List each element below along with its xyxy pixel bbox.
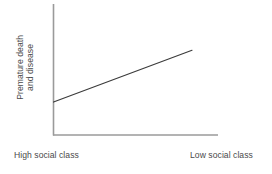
x-axis-label-low-social-class: Low social class (190, 150, 253, 160)
trend-line-series (54, 50, 193, 102)
chart-figure: Premature death and disease High social … (0, 0, 272, 174)
x-axis-label-high-social-class: High social class (14, 150, 79, 160)
chart-plot-area (0, 0, 272, 174)
